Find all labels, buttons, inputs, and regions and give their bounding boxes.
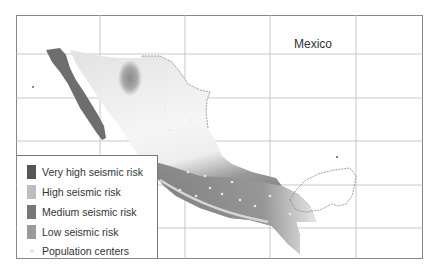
- legend-item-medium: Medium seismic risk: [27, 205, 137, 219]
- low-risk-swatch: [27, 225, 36, 239]
- legend-label: Very high seismic risk: [42, 166, 143, 178]
- legend: Very high seismic risk High seismic risk…: [17, 155, 158, 258]
- legend-item-high: High seismic risk: [27, 185, 121, 199]
- legend-item-very-high: Very high seismic risk: [27, 165, 143, 179]
- legend-item-population: Population centers: [27, 244, 129, 258]
- legend-label: Medium seismic risk: [42, 206, 137, 218]
- legend-label: High seismic risk: [42, 186, 121, 198]
- legend-item-low: Low seismic risk: [27, 225, 118, 239]
- very-high-risk-swatch: [27, 165, 36, 179]
- island-dot: [32, 86, 34, 88]
- sonora-risk-zone: [118, 60, 142, 96]
- high-risk-swatch: [27, 185, 36, 199]
- population-dot-icon: [27, 244, 36, 258]
- legend-label: Population centers: [42, 245, 129, 257]
- medium-risk-swatch: [27, 205, 36, 219]
- map-title: Mexico: [294, 37, 332, 51]
- island-dot: [336, 156, 338, 158]
- legend-label: Low seismic risk: [42, 226, 118, 238]
